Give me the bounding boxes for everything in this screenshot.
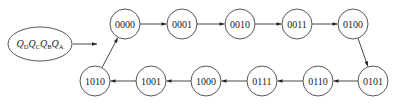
state-variable-legend: QDQCQBQA	[8, 27, 97, 61]
state-node-0100: 0100	[338, 9, 368, 39]
state-node-1010: 1010	[80, 66, 110, 96]
state-node-0001: 0001	[167, 9, 197, 39]
state-label: 1001	[141, 76, 161, 87]
transition-arrow-1010-to-0000	[102, 38, 118, 68]
state-diagram: QDQCQBQA 0000000100100011010001010110011…	[0, 0, 402, 108]
state-node-0110: 0110	[303, 66, 333, 96]
legend-label: QDQCQBQA	[16, 38, 63, 50]
state-nodes: 0000000100100011010001010110011110001001…	[80, 9, 388, 96]
state-node-0111: 0111	[247, 66, 277, 96]
state-label: 0110	[308, 76, 328, 87]
state-label: 0000	[115, 19, 135, 30]
state-node-0010: 0010	[225, 9, 255, 39]
state-node-0011: 0011	[282, 9, 312, 39]
state-node-0101: 0101	[358, 66, 388, 96]
state-node-1000: 1000	[191, 66, 221, 96]
state-node-1001: 1001	[136, 66, 166, 96]
state-label: 1010	[85, 76, 105, 87]
state-label: 0100	[343, 19, 363, 30]
state-label: 0001	[172, 19, 192, 30]
transition-arrow-0100-to-0101	[358, 38, 368, 66]
state-label: 0101	[363, 76, 383, 87]
state-label: 0111	[252, 76, 271, 87]
state-label: 0011	[287, 19, 307, 30]
state-node-0000: 0000	[110, 9, 140, 39]
state-label: 0010	[230, 19, 250, 30]
state-label: 1000	[196, 76, 216, 87]
